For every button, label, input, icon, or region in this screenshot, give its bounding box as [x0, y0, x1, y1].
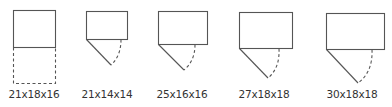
swing-line [327, 50, 359, 84]
box-top-face [87, 12, 128, 40]
box-30x18x18 [327, 14, 385, 84]
swing-arc [268, 49, 279, 79]
swing-line [87, 40, 112, 66]
dashed-extension [14, 48, 56, 84]
box-25x16x16 [159, 12, 208, 71]
swing-arc [358, 50, 372, 84]
box-21x18x16 [14, 11, 56, 84]
swing-arc [111, 40, 121, 66]
box-top-face [14, 11, 56, 48]
swing-line [240, 49, 269, 79]
swing-arc [184, 45, 195, 71]
box-21x14x14 [87, 12, 128, 66]
size-label: 27x18x18 [234, 86, 294, 102]
box-27x18x18 [240, 13, 293, 79]
size-label: 21x14x14 [77, 86, 137, 102]
swing-line [159, 45, 185, 71]
size-label: 25x16x16 [152, 86, 212, 102]
box-top-face [327, 14, 385, 50]
size-label: 30x18x18 [322, 86, 382, 102]
size-label: 21x18x16 [4, 86, 64, 102]
box-top-face [240, 13, 293, 49]
box-top-face [159, 12, 208, 45]
